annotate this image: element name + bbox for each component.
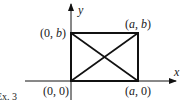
point-label-0b: (0, b) [40, 26, 66, 40]
figure-caption: Ex. 3 [0, 91, 17, 102]
point-label-origin: (0, 0) [43, 84, 69, 98]
x-axis-label: x [173, 65, 180, 79]
point-label-a0: (a, 0) [125, 84, 151, 98]
point-label-ab: (a, b) [125, 17, 151, 31]
coordinate-diagram: y x (0, b) (a, b) (0, 0) (a, 0) Ex. 3 [0, 0, 191, 106]
y-axis-label: y [77, 3, 84, 17]
